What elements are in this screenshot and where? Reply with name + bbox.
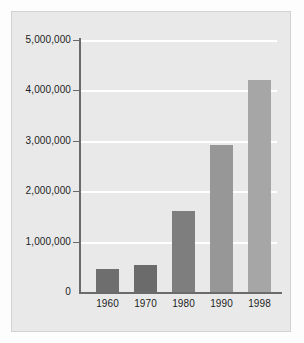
y-tick-label-0: 0: [5, 287, 71, 297]
y-tick-label-5000000: 5,000,000: [5, 35, 71, 45]
y-tick-mark-3000000: [73, 141, 80, 142]
y-axis-tick-labels: 5,000,000 4,000,000 3,000,000 2,000,000 …: [3, 0, 71, 343]
y-tick-mark-5000000: [73, 40, 80, 41]
bar-1998: [248, 80, 271, 292]
y-tick-label-3000000: 3,000,000: [5, 136, 71, 146]
y-tick-mark-1000000: [73, 242, 80, 243]
x-tick-label-1998: 1998: [240, 298, 279, 310]
bar-chart-figure: 5,000,000 4,000,000 3,000,000 2,000,000 …: [0, 0, 304, 343]
x-tick-label-1990: 1990: [202, 298, 241, 310]
bar-1960: [96, 269, 119, 292]
y-tick-label-2000000: 2,000,000: [5, 186, 71, 196]
y-axis-line: [79, 38, 81, 294]
y-tick-label-1000000: 1,000,000: [5, 237, 71, 247]
bar-1990: [210, 145, 233, 292]
y-tick-label-4000000: 4,000,000: [5, 85, 71, 95]
bars-layer: [80, 40, 277, 292]
x-axis-tick-labels: 1960 1970 1980 1990 1998: [80, 298, 280, 318]
y-tick-mark-4000000: [73, 90, 80, 91]
x-tick-label-1960: 1960: [88, 298, 127, 310]
x-tick-label-1970: 1970: [126, 298, 165, 310]
bar-1970: [134, 265, 157, 292]
bar-1980: [172, 211, 195, 292]
y-tick-mark-2000000: [73, 191, 80, 192]
x-axis-line: [79, 292, 282, 294]
x-tick-label-1980: 1980: [164, 298, 203, 310]
